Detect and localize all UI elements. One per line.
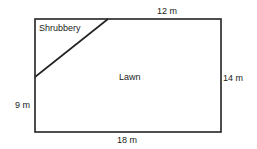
top-dimension: 12 m — [157, 6, 177, 16]
left-dimension: 9 m — [15, 100, 30, 110]
lawn-label: Lawn — [119, 72, 141, 82]
bottom-dimension: 18 m — [117, 135, 137, 145]
right-dimension: 14 m — [223, 73, 243, 83]
shrubbery-label: Shrubbery — [39, 23, 81, 33]
